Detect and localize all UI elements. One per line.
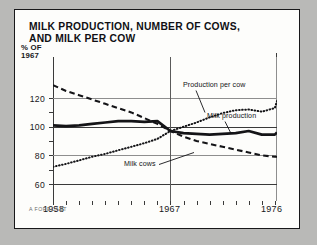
x-tick-1960: [79, 201, 80, 205]
y-tick-label-80: 80: [35, 151, 45, 161]
series-milk-cows-line: [53, 85, 277, 157]
x-tick-1963: [118, 201, 119, 205]
x-tick-label-1976: 1976: [261, 204, 282, 214]
plot-area: % OF 1967 120 100 80 60: [53, 57, 277, 201]
y-axis-header: % OF 1967: [21, 44, 42, 61]
x-tick-1972: [236, 201, 237, 205]
x-tick-1970: [210, 201, 211, 205]
page-title: MILK PRODUCTION, NUMBER OF COWS, AND MIL…: [29, 21, 279, 46]
title-line-2: AND MILK PER COW: [29, 33, 279, 45]
series-label-milk-production: Milk production: [207, 112, 256, 120]
x-tick-1973: [249, 201, 250, 205]
x-tick-1968: [184, 201, 185, 205]
series-label-milk-cows: Milk cows: [124, 160, 156, 168]
series-milk-production-line: [53, 121, 277, 135]
series-canvas: [53, 57, 277, 201]
x-tick-1971: [223, 201, 224, 205]
x-tick-1964: [131, 201, 132, 205]
x-tick-1969: [197, 201, 198, 205]
leader-line-milk-production: [225, 122, 231, 134]
x-tick-label-1967: 1967: [159, 204, 180, 214]
y-tick-label-100: 100: [30, 122, 45, 132]
title-line-1: MILK PRODUCTION, NUMBER OF COWS,: [29, 21, 240, 32]
x-tick-1965: [144, 201, 145, 205]
series-label-production-per-cow: Production per cow: [183, 81, 246, 89]
x-tick-1961: [92, 201, 93, 205]
y-tick-label-120: 120: [30, 94, 45, 104]
x-tick-1959: [66, 201, 67, 205]
y-axis-header-line-2: 1967: [21, 52, 42, 60]
series-production-per-cow-line: [53, 101, 277, 167]
y-tick-label-60: 60: [35, 180, 45, 190]
chart-card: MILK PRODUCTION, NUMBER OF COWS, AND MIL…: [14, 9, 300, 229]
x-tick-1962: [105, 201, 106, 205]
footnote: A FORECAST: [29, 206, 67, 212]
leader-line-production-per-cow: [196, 91, 205, 113]
leader-line-milk-cows: [159, 153, 194, 165]
